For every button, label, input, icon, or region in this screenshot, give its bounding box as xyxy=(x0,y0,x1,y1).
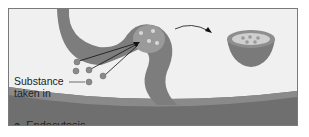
figure-caption: a. Endocytosis xyxy=(14,119,86,126)
transport-arrow xyxy=(175,25,209,31)
substance-label: Substance taken in xyxy=(14,75,64,99)
cell-membrane-invagination xyxy=(57,9,177,105)
endocytosis-illustration xyxy=(9,9,297,125)
endocytic-vesicle xyxy=(227,30,275,67)
diagram-frame: Substance taken in a. Endocytosis xyxy=(8,8,298,126)
